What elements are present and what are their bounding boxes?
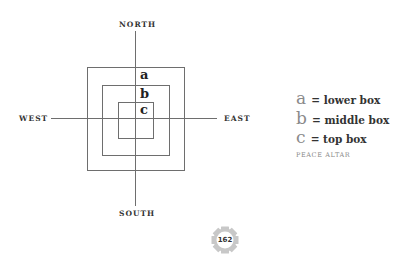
- legend-text-a: = lower box: [311, 94, 380, 106]
- page-number-badge: 162: [211, 226, 239, 254]
- east-label: EAST: [224, 114, 251, 123]
- west-east-axis: [51, 118, 217, 119]
- inner-box-c: [118, 102, 154, 139]
- south-label: SOUTH: [119, 209, 155, 218]
- legend-item-c: c = top box: [296, 129, 367, 146]
- box-letter-c: c: [140, 103, 148, 116]
- legend-letter-c: c: [296, 127, 306, 147]
- legend-caption: PEACE ALTAR: [296, 151, 350, 159]
- north-label: NORTH: [119, 20, 156, 29]
- legend-text-b: = middle box: [312, 114, 389, 126]
- west-label: WEST: [19, 114, 48, 123]
- page-number: 162: [211, 226, 239, 254]
- legend-letter-a: a: [296, 88, 306, 108]
- box-letter-a: a: [140, 68, 148, 81]
- legend-item-b: b = middle box: [296, 110, 389, 127]
- legend-item-a: a = lower box: [296, 90, 380, 107]
- legend-text-c: = top box: [311, 133, 367, 145]
- box-letter-b: b: [140, 87, 149, 100]
- legend-letter-b: b: [296, 108, 307, 128]
